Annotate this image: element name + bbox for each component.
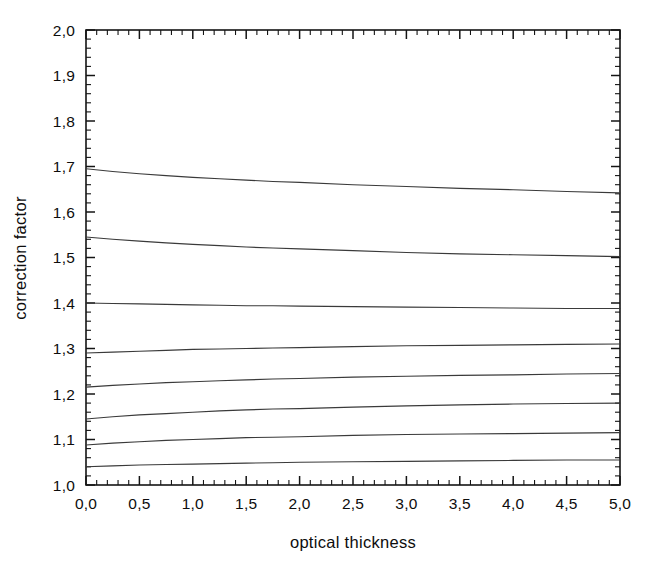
y-tick-label: 1,4 [53, 295, 75, 312]
tick-marks-layer [86, 30, 620, 485]
data-curve-curve-7 [86, 433, 620, 445]
y-tick-label: 1,3 [53, 340, 75, 357]
data-curve-curve-4 [86, 344, 620, 353]
y-tick-label: 1,6 [53, 204, 75, 221]
chart-figure: 1,01,11,21,31,41,51,61,71,81,92,0 0,00,5… [0, 0, 652, 567]
data-curve-curve-2 [86, 237, 620, 257]
data-curve-curve-1 [86, 169, 620, 193]
correction-factor-line-chart: 1,01,11,21,31,41,51,61,71,81,92,0 0,00,5… [0, 0, 652, 567]
x-tick-label: 2,5 [342, 495, 364, 512]
x-tick-label: 0,0 [75, 495, 97, 512]
data-curve-curve-6 [86, 403, 620, 419]
x-tick-label: 3,0 [395, 495, 417, 512]
y-tick-labels: 1,01,11,21,31,41,51,61,71,81,92,0 [53, 22, 75, 494]
y-tick-label: 1,1 [53, 431, 75, 448]
y-tick-label: 1,7 [53, 158, 75, 175]
y-tick-label: 1,8 [53, 113, 75, 130]
x-tick-label: 2,0 [289, 495, 311, 512]
data-curves-layer [86, 169, 620, 467]
x-tick-label: 1,0 [182, 495, 204, 512]
x-tick-label: 3,5 [449, 495, 471, 512]
y-axis-title: correction factor [11, 196, 29, 320]
x-tick-label: 4,0 [502, 495, 524, 512]
data-curve-curve-3 [86, 303, 620, 308]
y-tick-label: 2,0 [53, 22, 75, 39]
plot-frame [86, 30, 620, 485]
x-tick-label: 4,5 [556, 495, 578, 512]
data-curve-curve-8 [86, 460, 620, 467]
y-tick-label: 1,0 [53, 477, 75, 494]
x-tick-label: 0,5 [128, 495, 150, 512]
axes-box [86, 30, 620, 485]
data-curve-curve-5 [86, 374, 620, 388]
x-tick-label: 1,5 [235, 495, 257, 512]
x-tick-label: 5,0 [609, 495, 631, 512]
x-tick-labels: 0,00,51,01,52,02,53,03,54,04,55,0 [75, 495, 631, 512]
y-tick-label: 1,5 [53, 249, 75, 266]
y-tick-label: 1,9 [53, 67, 75, 84]
x-axis-title: optical thickness [290, 533, 416, 551]
y-tick-label: 1,2 [53, 386, 75, 403]
